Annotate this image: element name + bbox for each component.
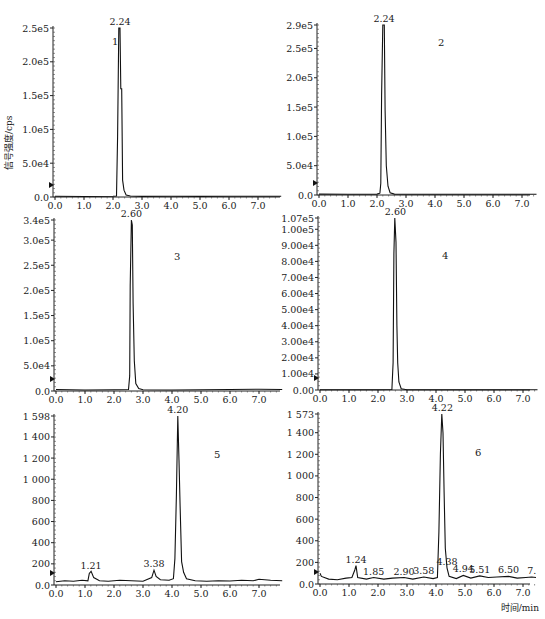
x-tick-label: 7.0 xyxy=(514,198,529,209)
x-tick-label: 3.0 xyxy=(399,587,414,598)
chromatogram-trace xyxy=(319,25,537,194)
y-tick-label: 600 xyxy=(32,516,50,527)
x-tick-label: 2.0 xyxy=(106,588,121,599)
x-tick-label: 1.0 xyxy=(77,394,92,405)
x-tick-label: 0.0 xyxy=(48,394,63,405)
chromatogram-panel-1: 0.05.0e41.0e51.5e52.0e52.5e50.01.02.03.0… xyxy=(22,16,281,211)
y-tick-label: 2.00e4 xyxy=(281,352,314,363)
x-tick-label: 5.0 xyxy=(457,393,472,404)
y-tick-label: 1.07e5 xyxy=(281,213,314,224)
x-tick-label: 7.0 xyxy=(515,393,530,404)
x-tick-label: 4.0 xyxy=(428,587,443,598)
x-tick-label: 7.0 xyxy=(251,394,266,405)
y-tick-label: 5.0e4 xyxy=(23,360,50,371)
chromatogram-panel-5: 0.02004006008001 0001 2001 4001 5980.01.… xyxy=(23,404,282,599)
peak-label: 7. xyxy=(527,565,536,576)
y-tick-label: 2.5e5 xyxy=(286,43,313,54)
y-tick-label: 6.00e4 xyxy=(281,288,314,299)
peak-label: 2.90 xyxy=(394,566,415,577)
chromatogram-figure: 0.05.0e41.0e51.5e52.0e52.5e50.01.02.03.0… xyxy=(0,0,545,619)
x-tick-label: 0.0 xyxy=(312,393,327,404)
x-tick-label: 2.0 xyxy=(370,587,385,598)
y-tick-label: 800 xyxy=(32,495,50,506)
chromatogram-trace xyxy=(56,220,282,390)
y-tick-label: 400 xyxy=(296,535,314,546)
y-tick-label: 200 xyxy=(32,558,50,569)
peak-label: 6.50 xyxy=(498,564,519,575)
peak-label: 1.85 xyxy=(363,566,384,577)
y-tick-label: 1.0e5 xyxy=(22,124,49,135)
y-axis-title: 信号强度/cps xyxy=(2,116,15,170)
x-tick-label: 6.0 xyxy=(486,393,501,404)
y-tick-label: 1 598 xyxy=(23,411,50,422)
x-tick-label: 4.0 xyxy=(427,198,442,209)
x-tick-label: 2.0 xyxy=(370,393,385,404)
x-tick-label: 7.0 xyxy=(250,200,265,211)
y-tick-label: 1.0e5 xyxy=(286,131,313,142)
y-tick-label: 3.00e4 xyxy=(281,336,314,347)
x-tick-label: 6.0 xyxy=(221,200,236,211)
y-tick-label: 1.00e5 xyxy=(281,224,314,235)
panel-number: 2 xyxy=(438,37,444,48)
chromatogram-panel-2: 0.05.0e41.0e51.5e52.0e52.5e52.9e50.01.02… xyxy=(286,13,536,209)
y-tick-label: 4.00e4 xyxy=(281,320,314,331)
peak-label: 4.20 xyxy=(167,404,188,415)
y-tick-label: 1.5e5 xyxy=(23,310,50,321)
chromatogram-trace xyxy=(56,416,282,582)
y-tick-label: 1 400 xyxy=(287,427,314,438)
x-tick-label: 6.0 xyxy=(222,588,237,599)
y-tick-label: 200 xyxy=(296,557,314,568)
peak-label: 3.38 xyxy=(143,558,164,569)
x-tick-label: 3.0 xyxy=(135,394,150,405)
chromatogram-panel-3: 0.05.0e41.0e51.5e52.0e52.5e53.0e53.4e50.… xyxy=(23,208,282,405)
y-tick-label: 5.00e4 xyxy=(281,304,314,315)
peak-label: 1.21 xyxy=(81,560,102,571)
x-tick-label: 0.0 xyxy=(311,198,326,209)
x-tick-label: 0.0 xyxy=(312,587,327,598)
x-tick-label: 2.0 xyxy=(106,394,121,405)
y-tick-label: 2.5e5 xyxy=(23,260,50,271)
y-tick-label: 400 xyxy=(32,537,50,548)
peak-label: 2.24 xyxy=(373,13,394,24)
x-tick-label: 5.0 xyxy=(456,198,471,209)
y-tick-label: 1 000 xyxy=(23,474,50,485)
peak-label: 1.24 xyxy=(345,554,366,565)
x-tick-label: 7.0 xyxy=(515,587,530,598)
y-tick-label: 3.0e5 xyxy=(23,235,50,246)
panel-number: 1 xyxy=(112,36,118,47)
x-tick-label: 6.0 xyxy=(485,198,500,209)
y-tick-label: 2.0e5 xyxy=(22,56,49,67)
x-tick-label: 3.0 xyxy=(399,393,414,404)
x-tick-label: 1.0 xyxy=(76,200,91,211)
y-tick-label: 1 000 xyxy=(287,470,314,481)
x-tick-label: 6.0 xyxy=(222,394,237,405)
panel-number: 4 xyxy=(442,250,448,261)
peak-label: 2.60 xyxy=(385,206,406,217)
x-tick-label: 5.0 xyxy=(457,587,472,598)
x-tick-label: 1.0 xyxy=(341,587,356,598)
chromatogram-panel-6: 0.02004006008001 0001 2001 4001 5730.01.… xyxy=(287,402,536,598)
peak-label: 2.24 xyxy=(109,16,130,27)
y-tick-label: 800 xyxy=(296,492,314,503)
peak-label: 2.60 xyxy=(121,208,142,219)
chromatogram-trace xyxy=(320,218,538,390)
y-tick-label: 2.5e5 xyxy=(22,23,49,34)
y-tick-label: 9.00e4 xyxy=(281,240,314,251)
y-tick-label: 1 200 xyxy=(23,453,50,464)
panel-number: 6 xyxy=(475,447,481,458)
x-tick-label: 7.0 xyxy=(251,588,266,599)
peak-label: 5.51 xyxy=(469,564,490,575)
x-tick-label: 3.0 xyxy=(135,588,150,599)
x-tick-label: 2.0 xyxy=(105,200,120,211)
y-tick-label: 1.0e5 xyxy=(23,335,50,346)
y-tick-label: 5.0e4 xyxy=(286,160,313,171)
panel-number: 5 xyxy=(214,449,220,460)
chromatogram-panel-4: 0.001.00e42.00e43.00e44.00e45.00e46.00e4… xyxy=(281,206,537,404)
y-tick-label: 1 573 xyxy=(287,409,314,420)
peak-label: 3.58 xyxy=(413,565,434,576)
x-tick-label: 5.0 xyxy=(193,394,208,405)
y-tick-label: 7.00e4 xyxy=(281,272,314,283)
x-axis-title: 时间/min xyxy=(501,601,539,614)
x-tick-label: 0.0 xyxy=(48,588,63,599)
y-tick-label: 1.5e5 xyxy=(286,102,313,113)
